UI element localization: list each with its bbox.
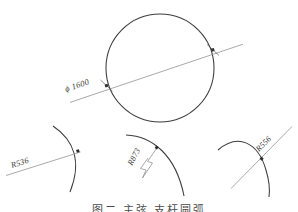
arc-right-figure: R556 [218, 127, 292, 198]
diameter-dimension-line [70, 44, 243, 102]
diameter-arrow-left [101, 80, 113, 91]
arc-middle-arrow [155, 146, 159, 150]
arc-left-label: R536 [9, 156, 31, 171]
technical-drawing-svg: ϕ 1600 R536 R873 [0, 0, 298, 212]
main-circle-figure: ϕ 1600 [64, 14, 243, 122]
arc-middle-curve [126, 135, 184, 196]
arc-middle-zigzag-leader [141, 149, 157, 179]
arc-middle-figure: R873 [125, 135, 184, 196]
arc-middle-label: R873 [125, 147, 142, 168]
figure-caption: 图二 主弦 支杆圆弧 [0, 204, 298, 212]
drawing-canvas: ϕ 1600 R536 R873 [0, 0, 298, 212]
diameter-arrow-right [207, 44, 219, 55]
diameter-label: ϕ 1600 [64, 77, 91, 94]
arc-left-figure: R536 [6, 126, 81, 192]
arc-right-arrow [260, 157, 264, 161]
main-circle-outline [106, 14, 214, 122]
arc-left-curve [53, 126, 76, 192]
